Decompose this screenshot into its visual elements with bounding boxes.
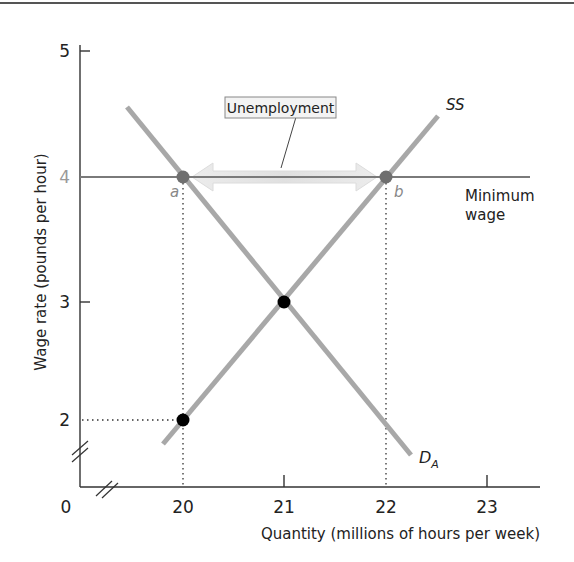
demand-label: DA xyxy=(419,448,439,471)
x-tick-23: 23 xyxy=(476,497,498,517)
point-a xyxy=(177,171,190,184)
chart-canvas: Unemployment 5 4 3 2 0 20 21 22 23 Wage … xyxy=(0,0,574,562)
minimum-wage-label-line2: wage xyxy=(465,206,505,224)
supply-point-20-2 xyxy=(177,414,190,427)
y-axis xyxy=(72,45,90,487)
point-b xyxy=(380,171,393,184)
y-tick-5: 5 xyxy=(59,41,70,61)
y-tick-2: 2 xyxy=(59,410,70,430)
x-tick-0: 0 xyxy=(61,497,72,517)
demand-curve xyxy=(127,107,411,455)
y-tick-3: 3 xyxy=(59,292,70,312)
x-tick-21: 21 xyxy=(273,497,295,517)
unemployment-label: Unemployment xyxy=(227,100,335,116)
point-b-label: b xyxy=(394,183,404,201)
y-tick-4: 4 xyxy=(59,167,70,187)
minimum-wage-label-line1: Minimum xyxy=(465,187,535,205)
demand-label-subscript: A xyxy=(430,458,439,471)
supply-curve xyxy=(163,116,438,444)
supply-label: SS xyxy=(446,96,465,114)
y-axis-title: Wage rate (pounds per hour) xyxy=(32,153,50,370)
point-a-label: a xyxy=(170,183,179,201)
x-axis xyxy=(80,475,540,498)
x-axis-title: Quantity (millions of hours per week) xyxy=(261,525,540,543)
x-tick-20: 20 xyxy=(172,497,194,517)
x-tick-22: 22 xyxy=(375,497,397,517)
unemployment-pointer xyxy=(281,117,296,168)
equilibrium-point xyxy=(278,296,291,309)
